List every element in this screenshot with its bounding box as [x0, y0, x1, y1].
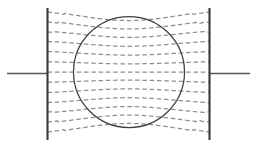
- field-lines-group: [48, 12, 210, 132]
- field-line-12: [48, 115, 210, 122]
- field-line-3: [48, 32, 210, 38]
- field-line-10: [48, 98, 210, 103]
- field-line-5: [48, 52, 210, 56]
- field-line-2: [48, 22, 210, 29]
- field-diagram-svg: [0, 0, 257, 147]
- field-line-11: [48, 107, 210, 113]
- field-line-8: [48, 80, 210, 82]
- figure-container: [0, 0, 257, 147]
- field-line-9: [48, 89, 210, 93]
- field-line-6: [48, 62, 210, 64]
- field-line-4: [48, 41, 210, 46]
